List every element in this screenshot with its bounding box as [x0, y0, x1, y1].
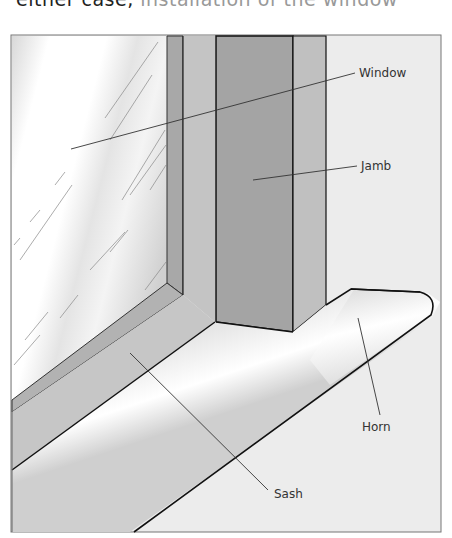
label-horn: Horn — [362, 420, 391, 434]
label-sash: Sash — [274, 487, 303, 501]
jamb — [216, 36, 293, 332]
window-sill-diagram: Window Jamb Horn Sash — [0, 0, 452, 538]
label-jamb: Jamb — [360, 159, 391, 173]
label-window: Window — [359, 66, 407, 80]
